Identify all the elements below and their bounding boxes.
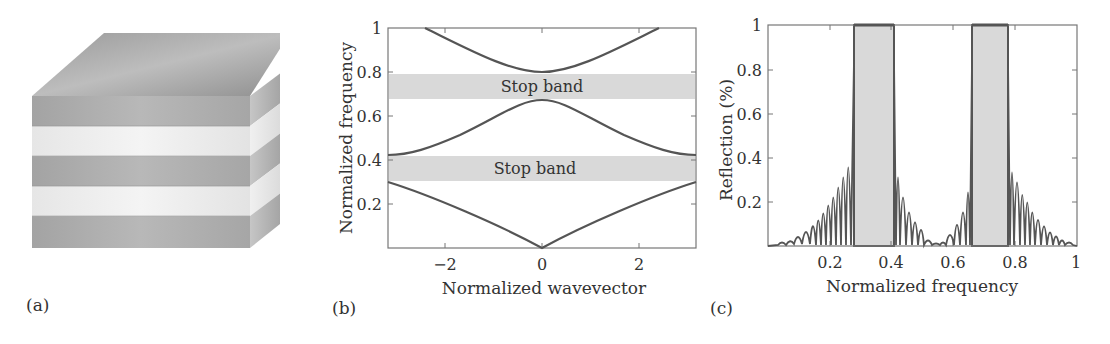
x-tick: 0 [537,255,547,274]
reflection-spectrum-chart: 1 0.8 0.6 0.4 0.2 0.2 0.4 0.6 0.8 1 Norm… [690,0,1110,344]
y-tick: 0.8 [357,63,382,82]
panel-label-b: (b) [332,298,356,318]
layer-dark [32,216,250,248]
x-tick: 2 [634,255,644,274]
band-2-curve [388,100,696,155]
band-3-curve [425,28,659,72]
reflection-band-1 [854,25,894,246]
panel-a: (a) [0,0,280,344]
stop-band-label-lower: Stop band [494,159,577,178]
x-tick: 0.8 [1002,253,1027,272]
y-axis-label: Normalized frequency [336,42,356,235]
reflection-curve-left [768,60,854,246]
band-structure-chart: Stop band Stop band 1 0.8 0.6 0.4 0.2 −2… [280,0,700,344]
layer-light [32,126,250,156]
reflection-band-2 [972,25,1008,246]
y-tick: 0.2 [737,193,762,212]
x-tick: 0.2 [817,253,842,272]
stop-band-label-upper: Stop band [501,77,584,96]
x-tick: 0.6 [940,253,965,272]
plot-frame [388,28,696,248]
reflection-curve-right [1008,60,1077,246]
x-axis-label: Normalized wavevector [442,278,647,298]
y-tick: 0.6 [357,107,382,126]
multilayer-stack-illustration [0,0,280,344]
panel-label-a: (a) [26,295,49,315]
plot-frame [768,25,1077,246]
x-tick: 0.4 [878,253,903,272]
y-tick: 1 [372,19,382,38]
y-tick: 0.6 [737,105,762,124]
y-tick: 0.8 [737,61,762,80]
x-tick: −2 [433,255,457,274]
layer-dark [32,96,250,126]
layer-dark [32,156,250,186]
panel-label-c: (c) [710,298,733,318]
y-tick: 0.4 [357,151,382,170]
y-tick: 0.2 [357,195,382,214]
panel-b: Stop band Stop band 1 0.8 0.6 0.4 0.2 −2… [280,0,700,344]
y-tick: 1 [752,16,762,35]
x-axis-label: Normalized frequency [826,276,1019,296]
layer-light [32,186,250,216]
y-axis-label: Reflection (%) [716,79,736,201]
panel-c: 1 0.8 0.6 0.4 0.2 0.2 0.4 0.6 0.8 1 Norm… [690,0,1110,344]
y-tick: 0.4 [737,149,762,168]
x-tick: 1 [1071,253,1081,272]
stack-top-face [32,33,280,96]
band-1-curve [388,182,696,248]
reflection-curve-mid [894,60,972,245]
